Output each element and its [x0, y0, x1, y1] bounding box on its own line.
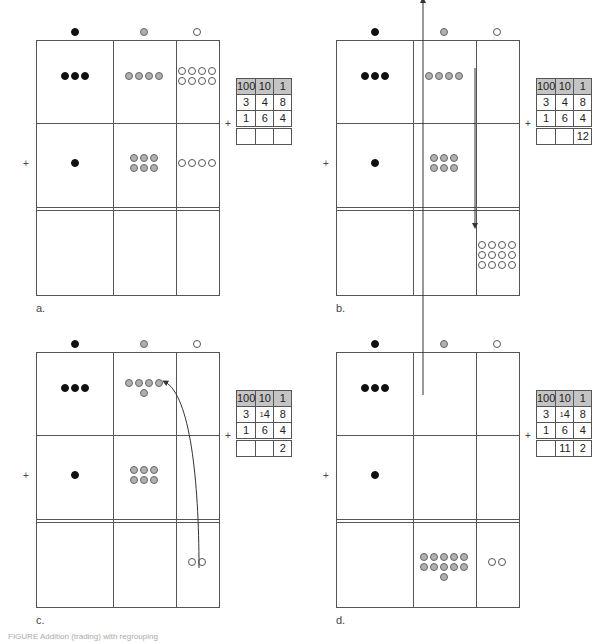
table-row: 164	[237, 423, 292, 440]
carry-mark: 1	[260, 411, 264, 418]
sum-cell: 2	[274, 440, 292, 457]
ones-marker	[193, 28, 201, 36]
table-cell: 1	[537, 111, 556, 128]
white-counter-dot	[198, 77, 206, 85]
table-cell: 1	[237, 111, 256, 128]
header-cell: 1	[574, 391, 592, 407]
column-divider	[113, 352, 114, 608]
table-cell: 8	[274, 407, 292, 423]
header-cell: 1	[274, 79, 292, 95]
table-cell: 1	[237, 423, 256, 440]
table-header-row: 100101	[237, 391, 292, 407]
carry-mark: 1	[560, 411, 564, 418]
gray-counter-dot	[150, 466, 158, 474]
gray-counter-dot	[430, 553, 438, 561]
table-cell: 1	[537, 423, 556, 440]
white-counter-dot	[478, 251, 486, 259]
gray-counter-dot	[445, 72, 453, 80]
table-cell: 6	[556, 423, 574, 440]
white-counter-dot	[488, 558, 496, 566]
column-divider	[476, 352, 477, 608]
table-cell: 4	[274, 423, 292, 440]
hundreds-marker	[71, 340, 79, 348]
figure-caption: FIGURE Addition (trading) with regroupin…	[8, 632, 158, 641]
table-cell: 3	[537, 95, 556, 111]
white-counter-dot	[188, 159, 196, 167]
black-counter-dot	[361, 384, 369, 392]
white-counter-dot	[208, 67, 216, 75]
white-counter-dot	[188, 558, 196, 566]
hundreds-marker	[371, 28, 379, 36]
row-divider	[36, 207, 220, 208]
sum-row: 112	[537, 440, 592, 457]
sum-cell	[274, 128, 292, 145]
white-counter-dot	[498, 558, 506, 566]
gray-counter-dot	[430, 563, 438, 571]
table-row: 164	[537, 423, 592, 440]
table-row: 3148	[537, 407, 592, 423]
sum-cell: 2	[574, 440, 592, 457]
table-cell: 3	[237, 95, 256, 111]
white-counter-dot	[508, 251, 516, 259]
tens-marker	[440, 28, 448, 36]
gray-counter-dot	[130, 466, 138, 474]
gray-counter-dot	[440, 563, 448, 571]
table-row: 164	[537, 111, 592, 128]
row-divider	[336, 435, 520, 436]
place-value-table: 10010131481642	[236, 390, 292, 457]
header-cell: 10	[256, 391, 274, 407]
row-divider	[36, 435, 220, 436]
ones-marker	[493, 340, 501, 348]
gray-counter-dot	[125, 72, 133, 80]
row-divider	[336, 522, 520, 523]
row-divider	[336, 210, 520, 211]
panel-label: a.	[36, 302, 45, 314]
black-counter-dot	[371, 72, 379, 80]
plus-sign: +	[23, 470, 29, 481]
black-counter-dot	[381, 384, 389, 392]
gray-counter-dot	[130, 476, 138, 484]
row-divider	[36, 210, 220, 211]
plus-sign: +	[225, 430, 231, 441]
black-counter-dot	[81, 72, 89, 80]
header-cell: 10	[256, 79, 274, 95]
gray-counter-dot	[420, 563, 428, 571]
sum-row: 12	[537, 128, 592, 145]
sum-cell	[556, 128, 574, 145]
table-row: 164	[237, 111, 292, 128]
place-value-table: 1001013148164112	[536, 390, 592, 457]
row-divider	[36, 522, 220, 523]
black-counter-dot	[381, 72, 389, 80]
column-divider	[176, 352, 177, 608]
panel-a: ++100101348164a.	[0, 0, 297, 320]
white-counter-dot	[498, 241, 506, 249]
gray-counter-dot	[450, 563, 458, 571]
tens-marker	[440, 340, 448, 348]
white-counter-dot	[478, 241, 486, 249]
table-cell: 4	[574, 111, 592, 128]
panel-c: ++10010131481642c.	[0, 320, 297, 640]
table-cell: 4	[574, 423, 592, 440]
gray-counter-dot	[440, 573, 448, 581]
column-divider	[413, 352, 414, 608]
white-counter-dot	[498, 251, 506, 259]
header-cell: 100	[537, 391, 556, 407]
table-cell: 8	[574, 407, 592, 423]
black-counter-dot	[371, 159, 379, 167]
tens-marker	[140, 340, 148, 348]
panel-d: ++1001013148164112d.	[300, 320, 594, 640]
table-cell: 6	[556, 111, 574, 128]
gray-counter-dot	[430, 154, 438, 162]
table-cell: 6	[256, 111, 274, 128]
gray-counter-dot	[435, 72, 443, 80]
white-counter-dot	[178, 159, 186, 167]
hundreds-marker	[371, 340, 379, 348]
header-cell: 100	[537, 79, 556, 95]
black-counter-dot	[371, 471, 379, 479]
table-cell: 4	[256, 95, 274, 111]
gray-counter-dot	[125, 379, 133, 387]
panel-b: ++10010134816412b.	[300, 0, 594, 320]
sum-cell	[537, 128, 556, 145]
gray-counter-dot	[150, 164, 158, 172]
header-cell: 100	[237, 391, 256, 407]
